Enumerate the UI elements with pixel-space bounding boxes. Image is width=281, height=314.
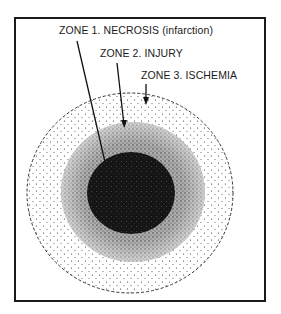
zone-1-necrosis-region (87, 152, 175, 234)
zone-2-label: ZONE 2. INJURY (100, 47, 183, 59)
zone-3-label: ZONE 3. ISCHEMIA (141, 69, 237, 81)
zone-1-label: ZONE 1. NECROSIS (infarction) (59, 24, 213, 36)
